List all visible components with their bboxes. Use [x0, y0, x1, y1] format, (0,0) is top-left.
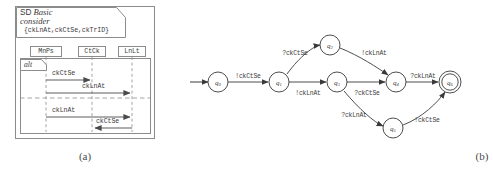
transition-label-q5-q6: !ckCtSe [414, 117, 440, 124]
transition-label-q0-q1: !ckCtSe [235, 73, 261, 80]
sequence-diagram-frame: SD Basic consider {ckLnAt,ckCtSe,ckTrID}… [15, 6, 155, 139]
transition-label-q3-q4: ?ckCtSe [354, 90, 380, 97]
alt-fragment-box: alt [20, 58, 151, 134]
message-label-2: ckLnAt [82, 83, 105, 90]
figure-b-automaton: q0 q1 q2 q3 q4 q5 q6 !ckCtSe ?ckCtSe !c [182, 0, 472, 180]
alt-operator-label: alt [24, 60, 32, 69]
figure-a-sequence-diagram: SD Basic consider {ckLnAt,ckCtSe,ckTrID}… [0, 0, 182, 180]
transition-label-q4-q6: ?ckLnAt [410, 73, 436, 80]
message-label-3: ckLnAt [52, 107, 75, 114]
automaton-graph: q0 q1 q2 q3 q4 q5 q6 !ckCtSe ?ckCtSe !c [182, 0, 472, 150]
caption-b: (b) [437, 150, 493, 162]
transition-label-q3-q5: ?ckLnAt [341, 112, 367, 119]
message-label-4: ckCtSe [96, 118, 119, 125]
message-label-1: ckCtSe [52, 70, 75, 77]
transition-label-q2-q4: !ckLnAt [361, 50, 387, 57]
transition-label-q1-q3: !ckLnAt [295, 90, 321, 97]
transition-label-q1-q2: ?ckCtSe [282, 50, 308, 57]
caption-a: (a) [40, 150, 130, 162]
